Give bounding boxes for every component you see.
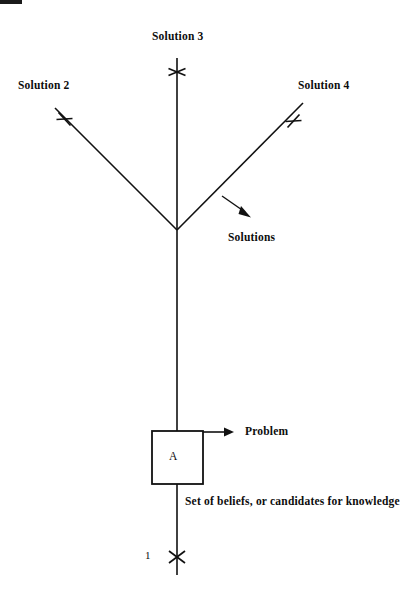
tick-solution-4 <box>286 115 302 128</box>
label-set-of-beliefs: Set of beliefs, or candidates for knowle… <box>185 495 400 507</box>
label-solutions-group: Solutions <box>228 231 275 243</box>
label-trunk-number: 1 <box>145 549 151 561</box>
label-solution-3: Solution 3 <box>152 30 204 42</box>
label-solution-4: Solution 4 <box>298 79 350 91</box>
edge-branch-solution-2 <box>55 108 177 230</box>
arrow-problem <box>203 428 234 437</box>
label-solution-2: Solution 2 <box>18 79 70 91</box>
label-box-a: A <box>169 450 178 462</box>
diagram-canvas: Solution 3 Solution 2 Solution 4 Solutio… <box>0 0 409 602</box>
arrow-solutions <box>222 196 251 218</box>
label-problem: Problem <box>245 425 288 437</box>
